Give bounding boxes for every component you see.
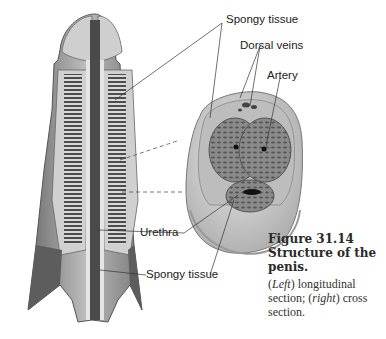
label-urethra: Urethra xyxy=(140,227,178,239)
label-dorsal-veins: Dorsal veins xyxy=(240,40,303,52)
label-spongy-tissue-top: Spongy tissue xyxy=(226,14,298,26)
figure-title: Structure of the penis. xyxy=(268,246,383,274)
figure-canvas: Spongy tissue Dorsal veins Artery Urethr… xyxy=(0,0,386,339)
longitudinal-section xyxy=(28,14,142,322)
label-artery: Artery xyxy=(267,70,298,82)
label-spongy-tissue-bottom: Spongy tissue xyxy=(146,269,218,281)
figure-number: Figure 31.14 xyxy=(268,232,383,246)
cross-section xyxy=(186,92,302,254)
figure-description: (Left) longitudinal section; (right) cro… xyxy=(268,277,383,319)
figure-caption: Figure 31.14 Structure of the penis. (Le… xyxy=(268,232,383,319)
